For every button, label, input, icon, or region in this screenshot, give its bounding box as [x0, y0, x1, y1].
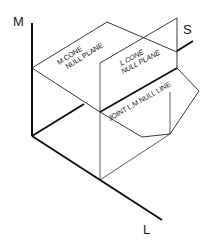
m-axis-label: M	[13, 14, 24, 29]
s-axis-label: S	[183, 22, 192, 37]
l-axis-label: L	[143, 222, 150, 237]
cone-null-planes-diagram: M S L M CONE NULL PLANE L CONE NULL PLAN…	[0, 0, 220, 240]
m-cone-null-plane	[32, 22, 177, 112]
s-axis-near	[32, 104, 84, 136]
joint-null-line-label: JOINT L,M NULL LINE	[107, 79, 173, 122]
l-axis	[32, 136, 162, 220]
s-axis-far	[177, 41, 193, 51]
